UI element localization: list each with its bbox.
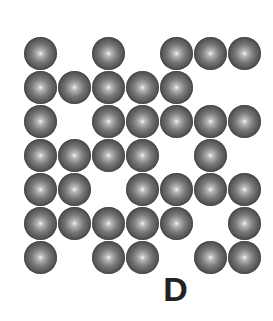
- ball-grid: [24, 37, 261, 275]
- sphere: [194, 241, 227, 274]
- sphere: [92, 105, 125, 138]
- sphere: [126, 71, 159, 104]
- sphere: [194, 139, 227, 172]
- figure-label: D: [0, 272, 273, 306]
- sphere: [126, 207, 159, 240]
- sphere: [92, 241, 125, 274]
- sphere: [24, 105, 57, 138]
- sphere: [126, 241, 159, 274]
- sphere: [24, 139, 57, 172]
- sphere: [126, 105, 159, 138]
- sphere: [160, 173, 193, 206]
- sphere: [92, 139, 125, 172]
- sphere: [58, 173, 91, 206]
- sphere: [228, 207, 261, 240]
- sphere: [92, 37, 125, 70]
- sphere: [194, 173, 227, 206]
- sphere: [228, 241, 261, 274]
- sphere: [24, 37, 57, 70]
- sphere: [24, 71, 57, 104]
- sphere: [58, 139, 91, 172]
- sphere: [58, 207, 91, 240]
- sphere: [228, 173, 261, 206]
- sphere: [194, 105, 227, 138]
- sphere: [92, 207, 125, 240]
- sphere: [126, 173, 159, 206]
- sphere: [58, 71, 91, 104]
- sphere: [24, 241, 57, 274]
- sphere: [228, 105, 261, 138]
- sphere: [160, 105, 193, 138]
- sphere: [24, 207, 57, 240]
- sphere: [24, 173, 57, 206]
- sphere: [160, 71, 193, 104]
- sphere: [194, 37, 227, 70]
- sphere: [126, 139, 159, 172]
- sphere: [228, 37, 261, 70]
- sphere: [160, 207, 193, 240]
- sphere: [92, 71, 125, 104]
- sphere: [160, 37, 193, 70]
